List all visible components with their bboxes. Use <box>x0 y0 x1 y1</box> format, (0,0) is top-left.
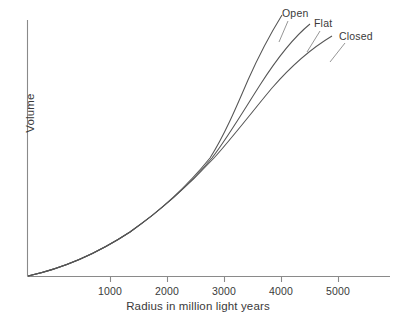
x-axis-ticks <box>111 277 339 283</box>
leader-closed <box>330 43 345 62</box>
curve-closed <box>28 36 332 276</box>
x-tick-label-2000: 2000 <box>155 285 179 297</box>
annotation-leaders <box>279 21 345 62</box>
x-tick-label-4000: 4000 <box>269 285 293 297</box>
x-tick-label-3000: 3000 <box>212 285 236 297</box>
y-axis-title: Volume <box>24 77 36 149</box>
series-label-closed: Closed <box>339 30 373 42</box>
x-axis-title: Radius in million light years <box>126 300 270 312</box>
series-label-flat: Flat <box>314 17 332 29</box>
plot-area <box>0 0 397 322</box>
curve-open <box>28 15 282 276</box>
x-tick-label-1000: 1000 <box>98 285 122 297</box>
data-curves <box>28 15 332 276</box>
chart-figure: Open Flat Closed 1000 2000 3000 4000 500… <box>0 0 397 322</box>
series-label-open: Open <box>282 7 309 19</box>
curve-flat <box>28 24 310 276</box>
x-tick-label-5000: 5000 <box>326 285 350 297</box>
leader-open <box>279 21 288 42</box>
